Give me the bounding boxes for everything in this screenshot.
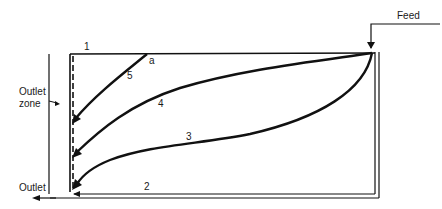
tank-right-wall — [375, 52, 379, 198]
path-4-label: 4 — [158, 98, 164, 109]
path-1-label: 1 — [84, 41, 90, 52]
flow-path-5 — [72, 54, 147, 124]
outlet-zone-label-line2: zone — [19, 98, 41, 109]
outlet-zone-pointer — [49, 101, 60, 106]
point-a-label: a — [149, 55, 155, 66]
path-5-label: 5 — [127, 70, 133, 81]
path-3-label: 3 — [186, 131, 192, 142]
tank-bottom-path-2 — [50, 191, 379, 198]
path-2-label: 2 — [144, 181, 150, 192]
outlet-zone-label-line1: Outlet — [19, 86, 46, 97]
outlet-arrow — [32, 195, 56, 201]
settling-tank-diagram: Feed 1 2 Outlet Outlet zone 5 a — [0, 0, 442, 209]
outlet-label: Outlet — [19, 182, 46, 193]
feed-label: Feed — [397, 10, 420, 21]
tank-top-path-1 — [70, 53, 375, 54]
flow-path-3 — [72, 53, 372, 190]
feed-inlet — [371, 24, 440, 48]
